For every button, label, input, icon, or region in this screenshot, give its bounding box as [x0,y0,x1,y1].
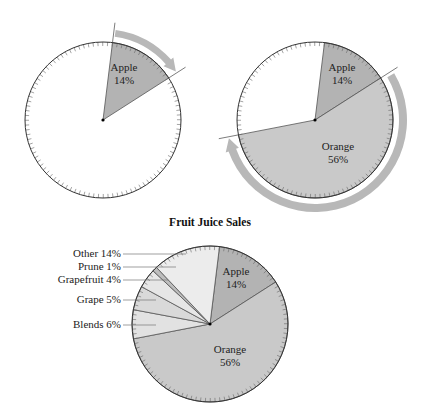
fruit-juice-pie-figure: Apple 14% Apple 14% Orange 56% Fruit Jui… [0,0,426,417]
label-apple-pct: 14% [226,278,246,290]
callout-grape: Grape 5% [77,293,121,305]
label-orange-pct: 56% [328,153,348,165]
chart-title: Fruit Juice Sales [169,216,251,228]
callout-prune: Prune 1% [78,260,121,272]
callout-grapefruit: Grapefruit 4% [58,273,121,285]
center-dot [101,118,104,121]
pie-panel-orange-step [219,42,407,212]
label-apple-name: Apple [223,265,250,277]
callout-labels: Other 14% Prune 1% Grapefruit 4% Grape 5… [58,247,121,330]
label-apple-name: Apple [111,61,138,73]
label-apple-pct: 14% [114,74,134,86]
label-apple-name: Apple [329,61,356,73]
pie-panel-complete [123,246,288,402]
center-dot [313,118,316,121]
pie-panel-apple-step [25,23,186,198]
label-orange-pct: 56% [220,356,240,368]
label-apple-pct: 14% [332,74,352,86]
callout-blends: Blends 6% [73,318,121,330]
center-dot [208,322,211,325]
label-orange-name: Orange [214,343,246,355]
boundary-line [219,135,239,139]
boundary-line [113,23,115,43]
callout-other: Other 14% [73,247,121,259]
label-orange-name: Orange [322,140,354,152]
